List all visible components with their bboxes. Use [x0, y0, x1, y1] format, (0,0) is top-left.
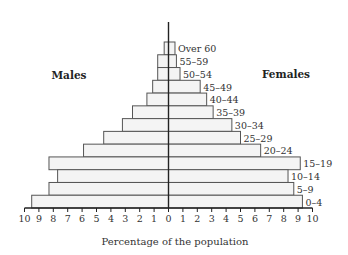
- age-group-label: 25–29: [244, 133, 273, 144]
- x-tick-label: 0: [165, 213, 171, 224]
- x-tick-label: 6: [252, 213, 258, 224]
- age-group-label: Over 60: [178, 43, 216, 54]
- bar-males: [58, 170, 169, 183]
- bar-females: [169, 42, 175, 55]
- x-tick-label: 5: [237, 213, 243, 224]
- bar-females: [169, 106, 214, 119]
- x-tick-label: 2: [194, 213, 200, 224]
- bar-males: [153, 80, 169, 93]
- x-tick-label: 1: [180, 213, 186, 224]
- bar-females: [169, 144, 261, 157]
- x-tick-label: 8: [281, 213, 287, 224]
- bar-males: [49, 157, 169, 170]
- x-tick-label: 4: [223, 213, 229, 224]
- age-group-label: 45–49: [203, 82, 232, 93]
- x-tick-label: 5: [93, 213, 99, 224]
- bar-males: [122, 119, 168, 132]
- age-group-label: 30–34: [235, 120, 264, 131]
- x-tick-label: 9: [36, 213, 42, 224]
- x-axis-label: Percentage of the population: [102, 236, 250, 247]
- x-axis-ticks: 10987654321012345678910: [18, 208, 318, 224]
- age-group-label: 50–54: [183, 69, 212, 80]
- bar-females: [169, 157, 301, 170]
- x-tick-label: 10: [306, 213, 318, 224]
- bar-males: [32, 195, 169, 208]
- bar-males: [158, 68, 169, 81]
- bar-females: [169, 170, 289, 183]
- x-tick-label: 6: [79, 213, 85, 224]
- x-tick-label: 3: [122, 213, 128, 224]
- bar-males: [84, 144, 169, 157]
- bar-females: [169, 55, 177, 68]
- bar-females: [169, 195, 303, 208]
- bar-males: [147, 93, 169, 106]
- x-tick-label: 7: [65, 213, 71, 224]
- bar-males: [49, 182, 169, 195]
- bar-males: [158, 55, 169, 68]
- age-group-label: 15–19: [303, 158, 332, 169]
- age-group-label: 0–4: [305, 197, 322, 208]
- bar-females: [169, 68, 181, 81]
- bar-females: [169, 119, 232, 132]
- x-tick-label: 9: [295, 213, 301, 224]
- x-tick-label: 8: [50, 213, 56, 224]
- males-label: Males: [51, 69, 86, 81]
- bar-females: [169, 80, 201, 93]
- x-tick-label: 7: [266, 213, 272, 224]
- bar-females: [169, 182, 294, 195]
- population-pyramid-chart: 10987654321012345678910 Over 6055–5950–5…: [0, 0, 348, 255]
- bar-males: [104, 131, 169, 144]
- age-group-label: 55–59: [179, 56, 208, 67]
- bar-females: [169, 93, 207, 106]
- x-tick-label: 4: [108, 213, 114, 224]
- age-group-label: 35–39: [216, 107, 245, 118]
- bar-females: [169, 131, 241, 144]
- x-tick-label: 3: [209, 213, 215, 224]
- x-tick-label: 2: [137, 213, 143, 224]
- bar-males: [133, 106, 169, 119]
- x-tick-label: 1: [151, 213, 157, 224]
- age-group-label: 5–9: [297, 184, 314, 195]
- age-group-label: 10–14: [291, 171, 320, 182]
- age-group-label: 20–24: [264, 145, 293, 156]
- age-group-label: 40–44: [210, 94, 239, 105]
- x-tick-label: 10: [18, 213, 30, 224]
- females-label: Females: [262, 68, 310, 80]
